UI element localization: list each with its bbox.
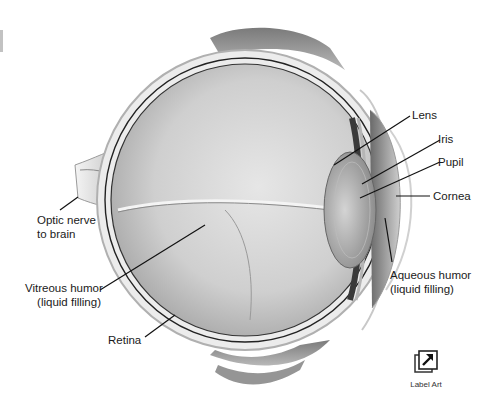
- label-art-caption: Label Art: [406, 380, 446, 389]
- label-retina: Retina: [108, 333, 141, 347]
- label-optic-nerve: Optic nerve to brain: [37, 213, 96, 241]
- label-aqueous-humor: Aqueous humor (liquid filling): [390, 268, 471, 296]
- lens-shape: [324, 152, 376, 268]
- label-art-button[interactable]: Label Art: [406, 349, 446, 389]
- arrow-up-right-icon: [413, 349, 439, 375]
- label-cornea: Cornea: [433, 189, 471, 203]
- label-iris: Iris: [438, 132, 453, 146]
- eye-diagram: Lens Iris Pupil Cornea Optic nerve to br…: [0, 0, 500, 401]
- label-vitreous-humor: Vitreous humor (liquid filling): [25, 281, 101, 309]
- label-lens: Lens: [412, 108, 437, 122]
- eye-illustration: [0, 0, 500, 401]
- label-pupil: Pupil: [438, 155, 464, 169]
- edge-fragment: [0, 30, 3, 52]
